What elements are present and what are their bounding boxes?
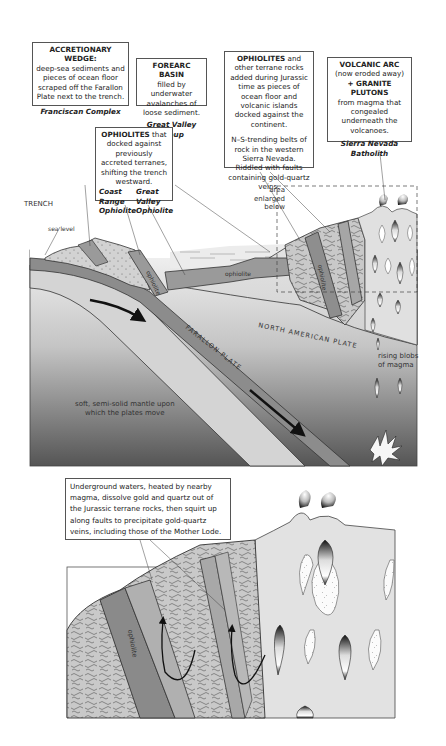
ophiolite-label-great-valley: ophiolite bbox=[225, 270, 251, 278]
callout-body: deep-sea sediments and pieces of ocean f… bbox=[36, 64, 125, 101]
top-cross-section: ophiolite ophiolite ophiolite bbox=[30, 154, 417, 466]
callout-body: from magma that congealed underneath the… bbox=[338, 98, 401, 135]
callout-accretionary-wedge: ACCRETIONARY WEDGE: deep-sea sediments a… bbox=[32, 42, 129, 106]
callout-ophiolites-terranes: OPHIOLITES and other terrane rocks added… bbox=[224, 51, 314, 168]
callout-body-2: N–S-trending belts of rock in the wester… bbox=[228, 135, 309, 191]
callout-title: OPHIOLITES bbox=[237, 54, 285, 63]
callout-title: VOLCANIC ARC bbox=[340, 60, 400, 69]
rising-blobs-label: rising blobs of magma bbox=[378, 352, 418, 369]
callout-body: filled by underwater avalanches of loose… bbox=[143, 80, 200, 117]
trench-label: TRENCH bbox=[24, 200, 53, 209]
mantle-label: soft, semi-solid mantle upon which the p… bbox=[75, 400, 175, 417]
callout-underground-waters: Underground waters, heated by nearby mag… bbox=[65, 478, 231, 540]
sierra-nevada-batholith bbox=[358, 206, 417, 345]
callout-title: ACCRETIONARY WEDGE: bbox=[49, 45, 111, 63]
area-enlarged-label: area enlarged below bbox=[254, 186, 285, 212]
callout-ophiolites-docked: OPHIOLITES that docked against previousl… bbox=[95, 127, 173, 201]
callout-formation-name: Sierra Nevada Batholith bbox=[341, 139, 398, 157]
coast-range-ophiolite-name: Coast Range Ophiolite bbox=[99, 187, 136, 215]
callout-forearc-basin: FOREARC BASIN filled by underwater avala… bbox=[136, 58, 207, 106]
sea-level-label: sea level bbox=[48, 225, 75, 234]
callout-formation-name: Franciscan Complex bbox=[40, 107, 120, 116]
callout-body: and other terrane rocks added during Jur… bbox=[230, 54, 308, 129]
callout-volcanic-arc: VOLCANIC ARC (now eroded away) + GRANITE… bbox=[327, 57, 412, 142]
callout-title: FOREARC BASIN bbox=[153, 61, 191, 79]
callout-title: OPHIOLITES bbox=[101, 130, 149, 139]
callout-title-2: + GRANITE PLUTONS bbox=[347, 79, 391, 97]
callout-subtitle: (now eroded away) bbox=[335, 69, 404, 78]
great-valley-ophiolite-name: Great Valley Ophiolite bbox=[136, 187, 173, 215]
